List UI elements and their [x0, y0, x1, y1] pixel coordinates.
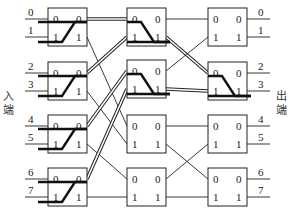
link-s1-s2-inner [87, 89, 127, 179]
port-in-1-label: 1 [132, 138, 138, 150]
port-in-1-label: 1 [213, 31, 219, 43]
output-label: 5 [258, 131, 264, 143]
port-in-0-label: 0 [213, 13, 219, 25]
output-side-label-2: 端 [276, 104, 287, 117]
network-canvas: 0123456701234567001100110011001100110011… [0, 0, 290, 212]
port-in-0-label: 0 [213, 120, 219, 132]
port-out-0-label: 0 [236, 173, 242, 185]
port-out-1-label: 1 [236, 138, 242, 150]
output-side-label-1: 出 [276, 89, 287, 103]
port-in-0-label: 0 [132, 120, 138, 132]
port-out-0-label: 0 [236, 13, 242, 25]
output-label: 2 [258, 60, 264, 72]
port-out-1-label: 1 [236, 31, 242, 43]
port-in-1-label: 1 [132, 191, 138, 203]
output-label: 7 [258, 184, 264, 196]
input-label: 2 [28, 60, 34, 72]
port-in-0-label: 0 [213, 173, 219, 185]
output-label: 6 [258, 166, 264, 178]
output-label: 3 [258, 78, 264, 90]
port-out-0-label: 0 [236, 67, 242, 79]
input-side-label-2: 端 [3, 104, 14, 117]
omega-network-diagram: 0123456701234567001100110011001100110011… [0, 0, 290, 212]
input-label: 0 [28, 6, 34, 18]
port-in-1-label: 1 [213, 138, 219, 150]
input-label: 1 [28, 24, 34, 36]
port-in-0-label: 0 [53, 13, 59, 25]
port-out-1-label: 1 [76, 31, 82, 43]
port-in-0-label: 0 [132, 173, 138, 185]
input-label: 7 [28, 184, 34, 196]
input-label: 3 [28, 78, 34, 90]
port-out-0-label: 0 [155, 173, 161, 185]
port-out-1-label: 1 [76, 138, 82, 150]
link-s1-s2-inner [87, 37, 127, 73]
port-out-1-label: 1 [76, 191, 82, 203]
port-out-1-label: 1 [155, 191, 161, 203]
port-out-0-label: 0 [155, 13, 161, 25]
port-out-1-label: 1 [76, 85, 82, 97]
port-out-0-label: 0 [236, 120, 242, 132]
input-label: 5 [28, 131, 34, 143]
port-out-1-label: 1 [155, 138, 161, 150]
output-label: 4 [258, 113, 264, 125]
port-out-1-label: 1 [236, 191, 242, 203]
port-in-1-label: 1 [213, 191, 219, 203]
input-label: 4 [28, 113, 34, 125]
output-label: 0 [258, 6, 264, 18]
port-out-0-label: 0 [155, 120, 161, 132]
input-side-label-1: 入 [3, 90, 14, 103]
output-label: 1 [258, 24, 264, 36]
input-label: 6 [28, 166, 34, 178]
port-out-0-label: 0 [155, 65, 161, 77]
